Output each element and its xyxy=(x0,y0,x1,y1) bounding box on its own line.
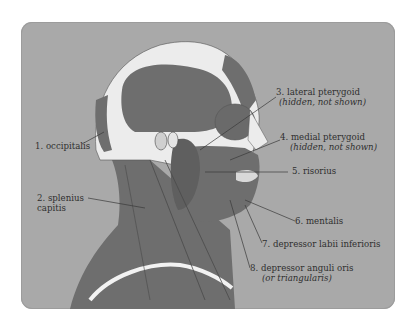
label-lateral-pterygoid: 3. lateral pterygoid (hidden, not shown) xyxy=(276,87,366,107)
label-text: 2. splenius xyxy=(37,193,84,203)
label-medial-pterygoid: 4. medial pterygoid (hidden, not shown) xyxy=(280,132,377,152)
label-subtext: (or triangularis) xyxy=(250,273,353,283)
diagram-panel: 1. occipitalis 2. splenius capitis 3. la… xyxy=(21,22,395,309)
label-subtext: (hidden, not shown) xyxy=(276,97,366,107)
label-text: 4. medial pterygoid xyxy=(280,132,365,142)
label-text: 3. lateral pterygoid xyxy=(276,87,360,97)
label-risorius: 5. risorius xyxy=(292,166,336,176)
label-subtext: (hidden, not shown) xyxy=(280,142,377,152)
label-text: 5. risorius xyxy=(292,166,336,176)
ear xyxy=(155,132,167,150)
label-depressor-anguli-oris: 8. depressor anguli oris (or triangulari… xyxy=(250,263,353,283)
label-occipitalis: 1. occipitalis xyxy=(35,141,90,151)
label-subtext: capitis xyxy=(37,203,84,213)
label-mentalis: 6. mentalis xyxy=(295,216,343,226)
label-splenius-capitis: 2. splenius capitis xyxy=(37,193,84,213)
label-text: 1. occipitalis xyxy=(35,141,90,151)
label-text: 8. depressor anguli oris xyxy=(250,263,353,273)
label-text: 7. depressor labii inferioris xyxy=(262,239,381,249)
label-text: 6. mentalis xyxy=(295,216,343,226)
label-depressor-labii-inferioris: 7. depressor labii inferioris xyxy=(262,239,381,249)
